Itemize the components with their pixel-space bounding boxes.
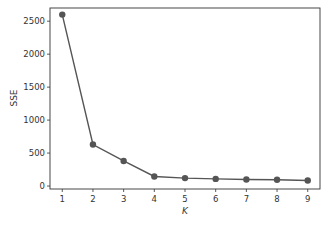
data-point-marker [274, 177, 280, 183]
data-point-marker [59, 11, 65, 17]
y-tick-label: 1000 [23, 115, 45, 125]
data-point-marker [120, 158, 126, 164]
elbow-line-chart: 05001000150020002500123456789 K SSE [0, 0, 329, 226]
sse-line [62, 15, 307, 181]
x-tick-label: 1 [60, 194, 65, 204]
plot-frame [50, 8, 320, 189]
x-tick-label: 7 [244, 194, 249, 204]
data-point-marker [305, 177, 311, 183]
data-point-marker [90, 141, 96, 147]
data-point-marker [243, 176, 249, 182]
x-tick-label: 4 [152, 194, 157, 204]
y-tick-label: 0 [40, 181, 45, 191]
y-tick-label: 1500 [23, 82, 45, 92]
data-point-marker [212, 176, 218, 182]
x-tick-label: 2 [90, 194, 95, 204]
x-tick-label: 5 [182, 194, 187, 204]
y-tick-label: 2500 [23, 16, 45, 26]
y-tick-label: 2000 [23, 49, 45, 59]
y-axis-label: SSE [9, 89, 19, 106]
x-tick-label: 9 [305, 194, 310, 204]
x-axis-label: K [182, 206, 189, 216]
data-point-marker [151, 173, 157, 179]
plot-area: 05001000150020002500123456789 [23, 8, 320, 204]
data-point-marker [182, 175, 188, 181]
x-tick-label: 8 [274, 194, 279, 204]
x-tick-label: 6 [213, 194, 218, 204]
x-tick-label: 3 [121, 194, 126, 204]
y-tick-label: 500 [29, 148, 45, 158]
